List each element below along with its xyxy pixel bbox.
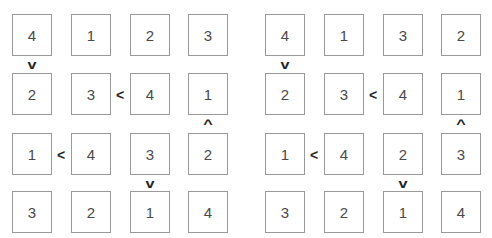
- cell-value: 1: [146, 205, 154, 220]
- cell-value: 2: [204, 147, 212, 162]
- constraint-greater-than-up-r3-c4: ^: [199, 117, 218, 131]
- cell-r2-c4[interactable]: 1: [188, 73, 228, 115]
- cell-r1-c2[interactable]: 1: [71, 14, 111, 56]
- cell-value: 2: [340, 205, 348, 220]
- cell-r1-c2[interactable]: 1: [324, 14, 364, 56]
- cell-value: 4: [87, 147, 95, 162]
- cell-value: 3: [204, 28, 212, 43]
- cell-value: 1: [204, 87, 212, 102]
- cell-r1-c1[interactable]: 4: [265, 14, 305, 56]
- cell-value: 2: [87, 205, 95, 220]
- cell-r3-c3[interactable]: 2: [383, 133, 423, 175]
- cell-value: 1: [281, 147, 289, 162]
- cell-value: 4: [281, 28, 289, 43]
- cell-r4-c4[interactable]: 4: [441, 191, 481, 233]
- cell-value: 3: [28, 205, 36, 220]
- cell-r1-c3[interactable]: 2: [130, 14, 170, 56]
- cell-r3-c2[interactable]: 4: [71, 133, 111, 175]
- constraint-greater-than-down-r1-c1: v: [23, 58, 42, 72]
- left-grid: 4123234114323214v<^<v: [0, 0, 226, 238]
- cell-value: 4: [399, 87, 407, 102]
- cell-r3-c4[interactable]: 2: [188, 133, 228, 175]
- cell-value: 3: [457, 147, 465, 162]
- cell-value: 3: [340, 87, 348, 102]
- cell-r2-c4[interactable]: 1: [441, 73, 481, 115]
- constraint-less-than-right-r3-c1: <: [54, 146, 68, 161]
- cell-r3-c4[interactable]: 3: [441, 133, 481, 175]
- cell-r4-c2[interactable]: 2: [324, 191, 364, 233]
- cell-r3-c2[interactable]: 4: [324, 133, 364, 175]
- constraint-greater-than-down-r3-c3: v: [394, 177, 413, 191]
- cell-r4-c4[interactable]: 4: [188, 191, 228, 233]
- cell-r2-c2[interactable]: 3: [324, 73, 364, 115]
- constraint-greater-than-down-r3-c3: v: [141, 177, 160, 191]
- cell-value: 3: [87, 87, 95, 102]
- cell-value: 1: [457, 87, 465, 102]
- right-grid: 4132234114233214v<^<v: [253, 0, 479, 238]
- cell-r4-c3[interactable]: 1: [383, 191, 423, 233]
- cell-value: 2: [28, 87, 36, 102]
- cell-r3-c1[interactable]: 1: [265, 133, 305, 175]
- constraint-less-than-right-r2-c2: <: [366, 86, 380, 101]
- cell-r2-c3[interactable]: 4: [130, 73, 170, 115]
- cell-r4-c1[interactable]: 3: [12, 191, 52, 233]
- constraint-greater-than-up-r3-c4: ^: [452, 117, 471, 131]
- cell-r4-c2[interactable]: 2: [71, 191, 111, 233]
- cell-value: 4: [204, 205, 212, 220]
- cell-value: 4: [340, 147, 348, 162]
- cell-value: 3: [146, 147, 154, 162]
- cell-r1-c4[interactable]: 2: [441, 14, 481, 56]
- cell-value: 1: [87, 28, 95, 43]
- cell-value: 4: [457, 205, 465, 220]
- cell-r2-c2[interactable]: 3: [71, 73, 111, 115]
- cell-value: 1: [340, 28, 348, 43]
- cell-r2-c1[interactable]: 2: [12, 73, 52, 115]
- cell-r2-c3[interactable]: 4: [383, 73, 423, 115]
- constraint-less-than-right-r3-c1: <: [307, 146, 321, 161]
- cell-r2-c1[interactable]: 2: [265, 73, 305, 115]
- cell-value: 2: [399, 147, 407, 162]
- cell-value: 1: [399, 205, 407, 220]
- cell-value: 4: [28, 28, 36, 43]
- cell-value: 3: [281, 205, 289, 220]
- cell-r1-c1[interactable]: 4: [12, 14, 52, 56]
- cell-r4-c1[interactable]: 3: [265, 191, 305, 233]
- cell-r3-c1[interactable]: 1: [12, 133, 52, 175]
- cell-r4-c3[interactable]: 1: [130, 191, 170, 233]
- constraint-less-than-right-r2-c2: <: [113, 86, 127, 101]
- constraint-greater-than-down-r1-c1: v: [276, 58, 295, 72]
- cell-value: 3: [399, 28, 407, 43]
- cell-value: 2: [281, 87, 289, 102]
- cell-value: 2: [457, 28, 465, 43]
- cell-value: 1: [28, 147, 36, 162]
- cell-r1-c3[interactable]: 3: [383, 14, 423, 56]
- cell-r3-c3[interactable]: 3: [130, 133, 170, 175]
- cell-value: 4: [146, 87, 154, 102]
- cell-r1-c4[interactable]: 3: [188, 14, 228, 56]
- futoshiki-puzzle-pair: 4123234114323214v<^<v 4132234114233214v<…: [0, 0, 492, 238]
- cell-value: 2: [146, 28, 154, 43]
